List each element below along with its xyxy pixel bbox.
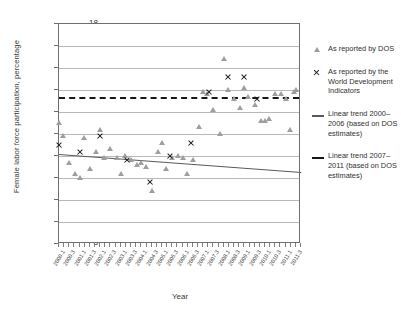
x-axis-tick-mark — [120, 243, 121, 247]
x-axis-tick-mark — [182, 243, 183, 247]
data-point-x — [206, 89, 213, 96]
x-axis-tick-mark — [73, 243, 74, 247]
data-point-triangle — [221, 56, 227, 61]
x-axis-tick-mark — [295, 243, 296, 247]
x-axis-tick-mark — [104, 243, 105, 247]
data-point-triangle — [210, 107, 216, 112]
data-point-triangle — [163, 166, 169, 171]
x-axis-tick-mark — [202, 243, 203, 247]
data-point-triangle — [293, 87, 299, 92]
legend-item-wdi: As reported by the World Development Ind… — [312, 67, 400, 96]
x-axis-tick-mark — [79, 243, 80, 247]
solid-line-icon — [312, 110, 325, 119]
x-axis-tick-mark — [151, 243, 152, 247]
data-point-triangle — [66, 160, 72, 165]
x-axis-tick-mark — [212, 243, 213, 247]
data-point-triangle — [231, 96, 237, 101]
x-axis-tick-mark — [135, 243, 136, 247]
x-axis-tick-mark — [176, 243, 177, 247]
data-point-triangle — [283, 96, 289, 101]
data-point-triangle — [155, 149, 161, 154]
x-axis-tick-mark — [228, 243, 229, 247]
legend-label-dos: As reported by DOS — [328, 44, 394, 53]
data-point-triangle — [241, 85, 247, 90]
data-point-triangle — [87, 166, 93, 171]
x-axis-tick-mark — [68, 243, 69, 247]
x-axis-tick-mark — [58, 243, 59, 247]
data-point-triangle — [143, 164, 149, 169]
x-axis-tick-mark — [89, 243, 90, 247]
x-axis-tick-mark — [140, 243, 141, 247]
x-marker-icon — [312, 68, 325, 77]
data-point-triangle — [101, 155, 107, 160]
x-axis-tick-mark — [63, 243, 64, 247]
data-point-x — [76, 148, 83, 155]
data-point-triangle — [180, 155, 186, 160]
data-point-triangle — [252, 102, 258, 107]
y-axis-title: Female labor force participation, percen… — [12, 17, 21, 217]
data-point-x — [123, 157, 130, 164]
x-axis-title: Year — [120, 292, 240, 301]
data-point-triangle — [225, 87, 231, 92]
data-point-x — [253, 95, 260, 102]
data-point-triangle — [159, 140, 165, 145]
x-axis-tick-mark — [187, 243, 188, 247]
data-point-triangle — [77, 175, 83, 180]
x-axis-tick-mark — [233, 243, 234, 247]
x-axis-tick-mark — [285, 243, 286, 247]
data-point-x — [167, 153, 174, 160]
x-axis-tick-mark — [259, 243, 260, 247]
x-axis-tick-mark — [238, 243, 239, 247]
data-point-triangle — [184, 171, 190, 176]
x-axis-tick-mark — [125, 243, 126, 247]
x-axis-tick-mark — [300, 243, 301, 247]
data-point-triangle — [114, 155, 120, 160]
data-point-triangle — [245, 94, 251, 99]
legend-item-trend-2000-2006: Linear trend 2000–2006 (based on DOS est… — [312, 109, 400, 138]
x-axis-tick-mark — [207, 243, 208, 247]
x-axis-tick-mark — [269, 243, 270, 247]
x-axis-tick-mark — [264, 243, 265, 247]
gridline — [59, 200, 299, 201]
legend-label-trend-2007-2011: Linear trend 2007–2011 (based on DOS est… — [328, 151, 397, 180]
gridline — [59, 46, 299, 47]
data-point-x — [224, 73, 231, 80]
data-point-triangle — [56, 120, 62, 125]
x-axis-tick-mark — [166, 243, 167, 247]
data-point-triangle — [287, 127, 293, 132]
gridline — [59, 134, 299, 135]
x-axis-tick-mark — [161, 243, 162, 247]
data-point-triangle — [118, 171, 124, 176]
data-point-triangle — [149, 188, 155, 193]
gridline — [59, 222, 299, 223]
x-axis-tick-mark — [192, 243, 193, 247]
gridline — [59, 90, 299, 91]
x-axis-tick-mark — [197, 243, 198, 247]
x-axis-tick-mark — [290, 243, 291, 247]
x-axis-tick-mark — [274, 243, 275, 247]
data-point-triangle — [107, 146, 113, 151]
gridline — [59, 112, 299, 113]
data-point-triangle — [237, 105, 243, 110]
legend-label-wdi: As reported by the World Development Ind… — [328, 67, 393, 96]
data-point-triangle — [272, 91, 278, 96]
gridline — [59, 68, 299, 69]
data-point-triangle — [266, 116, 272, 121]
x-axis-tick-mark — [84, 243, 85, 247]
plot-area — [58, 23, 300, 243]
gridline — [59, 178, 299, 179]
data-point-x — [146, 179, 153, 186]
data-point-triangle — [196, 124, 202, 129]
data-point-triangle — [190, 157, 196, 162]
x-axis-tick-mark — [94, 243, 95, 247]
x-axis-tick-mark — [223, 243, 224, 247]
x-axis-tick-mark — [171, 243, 172, 247]
x-axis-tick-mark — [279, 243, 280, 247]
x-axis-tick-mark — [146, 243, 147, 247]
data-point-x — [187, 139, 194, 146]
data-point-triangle — [81, 135, 87, 140]
data-point-triangle — [217, 131, 223, 136]
data-point-triangle — [93, 149, 99, 154]
x-axis-tick-mark — [109, 243, 110, 247]
legend-item-trend-2007-2011: Linear trend 2007–2011 (based on DOS est… — [312, 151, 400, 180]
